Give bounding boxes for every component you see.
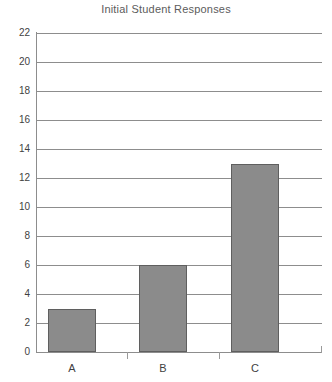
chart-title: Initial Student Responses	[0, 3, 332, 15]
bar	[231, 164, 279, 352]
gridline	[36, 352, 322, 353]
y-axis-tick-label: 22	[4, 28, 30, 38]
gridline	[36, 91, 322, 92]
bar	[48, 309, 96, 352]
gridline	[36, 178, 322, 179]
gridline	[36, 62, 322, 63]
y-axis-tick-label: 6	[4, 260, 30, 270]
bar-chart: Initial Student Responses 22201816141210…	[0, 0, 332, 382]
gridline	[36, 149, 322, 150]
x-axis-tick-label: B	[139, 362, 187, 374]
y-axis-tick-label: 8	[4, 231, 30, 241]
y-axis-tick-label: 16	[4, 115, 30, 125]
gridline	[36, 236, 322, 237]
x-axis-tick	[127, 352, 128, 359]
y-axis-tick-label: 2	[4, 318, 30, 328]
gridline	[36, 207, 322, 208]
x-axis-tick	[219, 352, 220, 359]
gridline	[36, 33, 322, 34]
y-axis-tick-label: 4	[4, 289, 30, 299]
bar	[139, 265, 187, 352]
gridline	[36, 120, 322, 121]
y-axis-tick-label: 18	[4, 86, 30, 96]
y-axis-tick-label: 0	[4, 347, 30, 357]
y-axis-tick-label: 12	[4, 173, 30, 183]
y-axis-tick-label: 20	[4, 57, 30, 67]
y-axis-line	[36, 32, 37, 353]
y-axis-tick-label: 10	[4, 202, 30, 212]
y-axis-tick-label: 14	[4, 144, 30, 154]
x-axis-tick-label: C	[231, 362, 279, 374]
x-axis-tick-label: A	[48, 362, 96, 374]
